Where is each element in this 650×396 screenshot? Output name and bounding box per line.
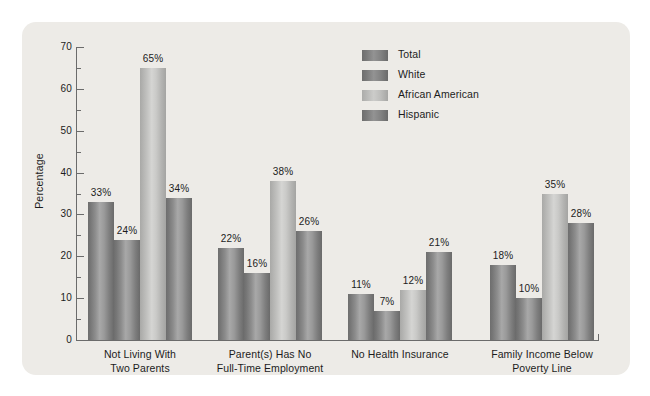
bar-fill	[88, 202, 114, 340]
x-axis-category-label-line: Family Income Below	[462, 347, 622, 361]
x-axis-category-label: Family Income BelowPoverty Line	[462, 347, 622, 375]
legend-swatch	[362, 70, 388, 81]
bar-fill	[400, 290, 426, 340]
y-axis-tick-label: 0	[0, 334, 72, 346]
bar-value-label: 65%	[143, 53, 163, 64]
bar-value-label: 11%	[351, 279, 371, 290]
bar: 34%	[166, 198, 192, 340]
bar-value-label: 38%	[273, 166, 293, 177]
legend-label: White	[398, 67, 425, 82]
bar-fill	[374, 311, 400, 340]
y-axis-tick-label: 40	[0, 167, 72, 179]
x-axis-category-label-line: Full-Time Employment	[190, 361, 350, 375]
y-axis-tick-label-text: 20	[6, 250, 72, 261]
plot-area: 33%24%65%34%22%16%38%26%11%7%12%21%18%10…	[76, 47, 598, 340]
bar-value-label: 16%	[247, 258, 267, 269]
legend-label: Hispanic	[398, 107, 439, 122]
bar-value-label: 21%	[429, 237, 449, 248]
y-axis-tick-label-text: 30	[6, 208, 72, 219]
bar-value-label: 34%	[169, 183, 189, 194]
bar-value-label: 28%	[571, 208, 591, 219]
bar-fill	[244, 273, 270, 340]
bar: 35%	[542, 194, 568, 341]
x-axis-category-label-line: Poverty Line	[462, 361, 622, 375]
bar-fill	[568, 223, 594, 340]
bar-fill	[516, 298, 542, 340]
y-axis-tick-label: 50	[0, 125, 72, 137]
y-axis-tick-label: 30	[0, 208, 72, 220]
bar-fill	[296, 231, 322, 340]
y-axis-tick-label: 20	[0, 250, 72, 262]
bar-value-label: 22%	[221, 233, 241, 244]
bar-fill	[114, 240, 140, 340]
y-axis-tick-label-text: 70	[6, 41, 72, 52]
x-axis-end-tick	[598, 334, 599, 341]
bar-fill	[140, 68, 166, 340]
y-axis-tick-label-text: 60	[6, 83, 72, 94]
legend-swatch	[362, 50, 388, 61]
bar: 18%	[490, 265, 516, 340]
bar: 16%	[244, 273, 270, 340]
bar-fill	[270, 181, 296, 340]
bar-value-label: 33%	[91, 187, 111, 198]
bar: 33%	[88, 202, 114, 340]
bar-value-label: 7%	[380, 296, 395, 307]
legend-label: Total	[398, 47, 421, 62]
bar-fill	[426, 252, 452, 340]
bar: 38%	[270, 181, 296, 340]
y-axis-tick-major	[76, 340, 84, 341]
y-axis-tick-label-text: 50	[6, 125, 72, 136]
bar: 22%	[218, 248, 244, 340]
bar: 21%	[426, 252, 452, 340]
bar-fill	[490, 265, 516, 340]
y-axis-tick-label-text: 40	[6, 167, 72, 178]
y-axis-tick-label-text: 0	[6, 334, 72, 345]
bar: 11%	[348, 294, 374, 340]
legend-swatch	[362, 110, 388, 121]
bar-value-label: 26%	[299, 216, 319, 227]
bar-fill	[348, 294, 374, 340]
bar: 7%	[374, 311, 400, 340]
bar: 28%	[568, 223, 594, 340]
bar: 26%	[296, 231, 322, 340]
y-axis-tick-label-text: 10	[6, 292, 72, 303]
bar-fill	[542, 194, 568, 341]
legend-swatch	[362, 90, 388, 101]
bar: 10%	[516, 298, 542, 340]
bar-value-label: 10%	[519, 283, 539, 294]
bar-value-label: 35%	[545, 179, 565, 190]
legend-label: African American	[398, 87, 479, 102]
bar: 12%	[400, 290, 426, 340]
x-axis-category-label-line: No Health Insurance	[320, 347, 480, 361]
y-axis-tick-label: 10	[0, 292, 72, 304]
y-axis-tick-label: 60	[0, 83, 72, 95]
bar-fill	[166, 198, 192, 340]
y-axis-tick-label: 70	[0, 41, 72, 53]
bar-fill	[218, 248, 244, 340]
bar-value-label: 24%	[117, 225, 137, 236]
x-axis-category-label: No Health Insurance	[320, 347, 480, 361]
bar-value-label: 12%	[403, 275, 423, 286]
bar-value-label: 18%	[493, 250, 513, 261]
bar: 65%	[140, 68, 166, 340]
x-axis-line	[76, 340, 599, 341]
chart-figure: Percentage 706050403020100 33%24%65%34%2…	[0, 0, 650, 396]
bar: 24%	[114, 240, 140, 340]
